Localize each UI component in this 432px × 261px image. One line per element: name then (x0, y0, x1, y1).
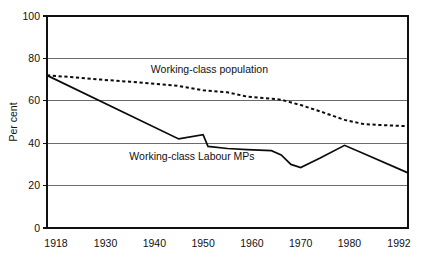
x-tick-label: 1918 (44, 237, 68, 249)
x-tick-label: 1940 (143, 237, 167, 249)
x-tick-label: 1992 (387, 237, 411, 249)
x-tick-label: 1980 (338, 237, 362, 249)
y-tick-label: 40 (28, 137, 40, 149)
x-tick-label: 1930 (94, 237, 118, 249)
y-tick-label: 100 (22, 10, 40, 22)
y-axis-title: Per cent (7, 102, 19, 141)
y-tick-label: 0 (34, 222, 40, 234)
annotation-working-class-labour-mps: Working-class Labour MPs (129, 150, 254, 162)
annotation-working-class-population: Working-class population (151, 63, 268, 75)
chart-background (0, 0, 432, 261)
y-tick-label: 20 (28, 179, 40, 191)
y-tick-label: 60 (28, 94, 40, 106)
x-tick-label: 1970 (289, 237, 313, 249)
y-tick-label: 80 (28, 52, 40, 64)
x-tick-label: 1950 (191, 237, 215, 249)
x-tick-label: 1960 (240, 237, 264, 249)
line-chart-svg: 020406080100 191819301940195019601970198… (0, 0, 432, 261)
chart-figure: 020406080100 191819301940195019601970198… (0, 0, 432, 261)
